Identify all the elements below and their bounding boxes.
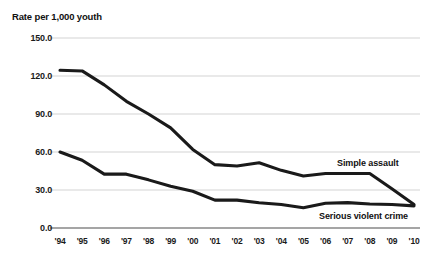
chart-container: Rate per 1,000 youth 0.030.060.090.0120.… bbox=[0, 0, 426, 259]
x-tick-label: '98 bbox=[143, 236, 154, 246]
x-tick-label: '99 bbox=[165, 236, 176, 246]
x-tick-label: '00 bbox=[187, 236, 198, 246]
x-tick-label: '06 bbox=[320, 236, 331, 246]
series-label-serious-violent-crime: Serious violent crime bbox=[319, 211, 408, 221]
x-tick-label: '10 bbox=[409, 236, 420, 246]
x-tick-label: '05 bbox=[298, 236, 309, 246]
series-label-simple-assault: Simple assault bbox=[337, 158, 399, 168]
x-tick-label: '09 bbox=[386, 236, 397, 246]
x-tick-label: '96 bbox=[99, 236, 110, 246]
x-tick-label: '01 bbox=[209, 236, 220, 246]
x-tick-label: '07 bbox=[342, 236, 353, 246]
x-tick-label: '94 bbox=[55, 236, 66, 246]
x-tick-label: '95 bbox=[77, 236, 88, 246]
x-tick-label: '04 bbox=[276, 236, 287, 246]
x-tick-label: '02 bbox=[232, 236, 243, 246]
x-tick-label: '97 bbox=[121, 236, 132, 246]
x-tick-label: '03 bbox=[254, 236, 265, 246]
x-tick-label: '08 bbox=[364, 236, 375, 246]
